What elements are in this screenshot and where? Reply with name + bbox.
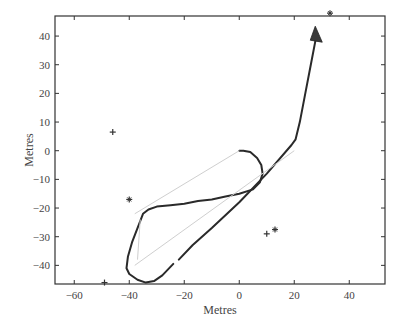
- plus-marker: [110, 129, 116, 135]
- plot-area: [102, 10, 334, 285]
- x-tick-label: 20: [289, 289, 301, 301]
- y-tick-label: −30: [33, 231, 51, 243]
- y-tick-label: 20: [39, 87, 51, 99]
- y-tick-label: −40: [33, 259, 51, 271]
- plus-marker: [102, 280, 108, 286]
- y-tick-label: 0: [45, 145, 51, 157]
- y-axis: −40−30−20−10010203040: [33, 30, 385, 271]
- y-tick-label: 10: [39, 116, 51, 128]
- chord-line: [135, 151, 240, 214]
- y-tick-label: 40: [39, 30, 51, 42]
- x-tick-label: −60: [66, 289, 84, 301]
- y-tick-label: −10: [33, 173, 51, 185]
- trajectory-line: [127, 151, 263, 283]
- x-tick-label: −20: [176, 289, 194, 301]
- x-tick-label: −40: [121, 289, 139, 301]
- x-tick-label: 0: [237, 289, 243, 301]
- star-marker: [327, 10, 333, 16]
- y-tick-label: 30: [39, 59, 51, 71]
- plus-marker: [264, 231, 270, 237]
- y-axis-label: Metres: [22, 133, 36, 167]
- x-axis-label: Metres: [203, 303, 237, 317]
- star-marker: [272, 227, 278, 233]
- x-tick-label: 40: [344, 289, 356, 301]
- chord-line: [135, 151, 295, 266]
- trajectory-line: [179, 36, 316, 260]
- axes-frame: [55, 16, 385, 284]
- vehicle-arrow-icon: [310, 26, 322, 42]
- chart: −60−40−2002040 −40−30−20−10010203040 Met…: [0, 0, 406, 329]
- y-tick-label: −20: [33, 202, 51, 214]
- star-marker: [126, 196, 132, 202]
